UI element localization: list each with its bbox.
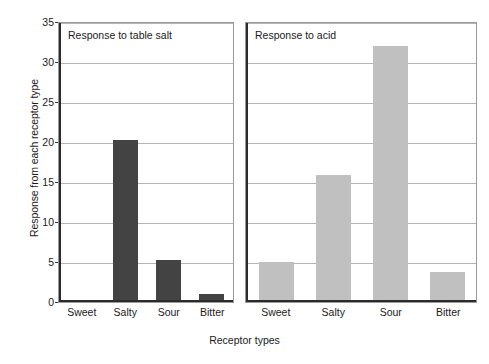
x-tick-label: Sour <box>147 306 191 318</box>
x-axis-title: Receptor types <box>0 334 489 346</box>
x-tick-label: Bitter <box>191 306 235 318</box>
bar-salty <box>113 140 139 300</box>
panel-response-to-acid: Response to acid <box>245 22 477 303</box>
x-tick-label: Sweet <box>247 306 305 318</box>
y-tick-label: 30 <box>26 57 54 67</box>
x-axis-spine-left <box>59 300 233 302</box>
bar-bitter <box>430 272 464 300</box>
x-tick-label: Salty <box>305 306 363 318</box>
x-axis-tick-labels-left: SweetSaltySourBitter <box>60 306 234 322</box>
bar-slot <box>104 23 147 300</box>
y-tick-label: 35 <box>26 17 54 27</box>
bar-slot <box>147 23 190 300</box>
y-tick-label: 10 <box>26 217 54 227</box>
bar-sour <box>373 46 407 300</box>
panel-title-right: Response to acid <box>255 29 336 41</box>
x-tick-label: Salty <box>104 306 148 318</box>
bar-slot <box>419 23 476 300</box>
y-axis-spine-right <box>246 23 248 302</box>
bar-sour <box>156 260 182 300</box>
bar-salty <box>316 175 350 300</box>
bars-right <box>248 23 476 300</box>
y-axis-spine-left <box>59 23 61 302</box>
panel-title-left: Response to table salt <box>68 29 172 41</box>
x-axis-tick-labels-right: SweetSaltySourBitter <box>247 306 477 322</box>
x-tick-label: Bitter <box>420 306 478 318</box>
y-axis-tick-labels: 05101520253035 <box>26 0 54 364</box>
bar-slot <box>305 23 362 300</box>
bar-chart-figure: Response from each receptor type 0510152… <box>0 0 489 364</box>
panel-response-to-table-salt: Response to table salt <box>58 22 234 303</box>
bar-slot <box>61 23 104 300</box>
x-tick-label: Sour <box>362 306 420 318</box>
bar-slot <box>248 23 305 300</box>
y-tick-label: 20 <box>26 137 54 147</box>
y-tick-label: 5 <box>26 257 54 267</box>
y-tick-label: 15 <box>26 177 54 187</box>
y-tick-label: 25 <box>26 97 54 107</box>
x-axis-spine-right <box>246 300 476 302</box>
bar-slot <box>362 23 419 300</box>
x-tick-label: Sweet <box>60 306 104 318</box>
bars-left <box>61 23 233 300</box>
bar-sweet <box>259 262 293 300</box>
y-tick-label: 0 <box>26 297 54 307</box>
bar-slot <box>190 23 233 300</box>
